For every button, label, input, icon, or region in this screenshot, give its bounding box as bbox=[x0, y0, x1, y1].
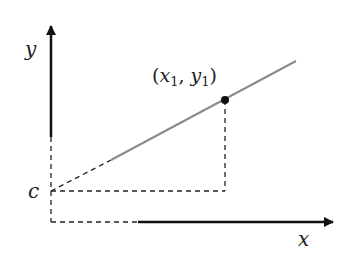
point-label-y-sub: 1 bbox=[201, 74, 209, 89]
x-axis-label: x bbox=[298, 227, 309, 251]
point-label-sep: , bbox=[178, 64, 190, 86]
point-marker bbox=[221, 96, 229, 104]
point-label-x: x bbox=[159, 64, 170, 86]
point-label-close: ) bbox=[210, 64, 217, 86]
point-label-x-sub: 1 bbox=[170, 74, 178, 89]
linear-graph-diagram: y x c (x1, y1) bbox=[0, 0, 351, 266]
point-label-open: ( bbox=[152, 64, 159, 86]
point-label: (x1, y1) bbox=[152, 64, 217, 89]
line-dashed-extension bbox=[51, 160, 111, 191]
intercept-label: c bbox=[28, 179, 39, 203]
y-axis-label: y bbox=[24, 37, 37, 61]
point-label-y: y bbox=[190, 64, 202, 86]
